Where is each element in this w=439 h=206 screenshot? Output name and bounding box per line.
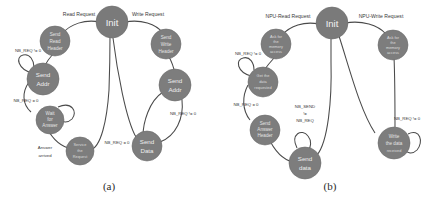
node-ask-memory-left-line-3: access	[270, 49, 282, 54]
node-init-a-label: Init	[106, 17, 119, 28]
edge-init-to-send-read-header	[62, 21, 100, 34]
node-send-data-b-line-0: Send	[298, 155, 313, 162]
edge-label-b-nb-req-ne-zero-right: NB_REQ != 0	[394, 116, 421, 121]
node-send-data-a-line-0: Send	[140, 138, 155, 145]
edge-init-to-send-write-header	[125, 21, 163, 33]
edge-label-nb-send-line-0: NB_SEND	[295, 104, 315, 109]
node-get-data-requested-line-1: data	[259, 79, 267, 84]
node-ask-memory-access-right[interactable]: Ask for the memory access	[378, 30, 408, 60]
node-service-the-request[interactable]: Service the Request	[66, 137, 94, 165]
node-wait-for-answer-line-0: Wait	[45, 111, 55, 116]
node-send-answer-header[interactable]: Send Answer Header	[250, 115, 280, 145]
node-send-addr-right-line-0: Send	[168, 77, 183, 84]
node-send-addr-right-line-1: Addr	[168, 86, 181, 93]
edge-init-to-ask-memory-left	[282, 23, 319, 35]
node-service-the-request-line-1: the	[77, 148, 82, 153]
panel-b-nodes: Init Ask for the memory access Get the d…	[248, 7, 410, 179]
edge-label-nb-req-eq-zero-center: NB_REQ = 0	[105, 140, 131, 145]
panel-a-svg: Init Send Read Header Send Addr Wait for	[0, 0, 219, 206]
node-wait-for-answer-line-1: for	[47, 117, 53, 122]
edge-label-b-nb-req-ne-zero-left: NB_REQ != 0	[235, 51, 262, 56]
edge-label-read-request: Read Request	[63, 11, 96, 17]
node-write-data-received-line-2: received	[387, 148, 402, 153]
node-send-write-header[interactable]: Send Write Header	[151, 29, 181, 59]
node-send-answer-header-line-0: Send	[260, 121, 271, 126]
edge-label-nb-req-ne-zero-right: NB_REQ != 0	[170, 111, 197, 116]
node-send-write-header-line-1: Write	[161, 42, 172, 47]
edge-init-to-write-data-curve	[339, 36, 375, 133]
panel-b-svg: Init Ask for the memory access Get the d…	[220, 0, 439, 206]
node-write-data-received-line-1: the data	[386, 141, 403, 146]
node-init-b[interactable]: Init	[316, 7, 348, 39]
node-write-data-received[interactable]: Write the data received	[378, 127, 410, 159]
edge-label-npu-read-request: NPU-Read Request	[265, 13, 311, 19]
node-send-addr-right[interactable]: Send Addr	[159, 69, 191, 101]
node-get-data-requested-line-2: requested	[254, 85, 271, 90]
edge-init-to-ask-memory-right	[345, 22, 386, 34]
node-send-read-header-line-0: Send	[50, 32, 61, 37]
node-send-addr-left-line-0: Send	[36, 71, 51, 78]
edge-label-nb-send-line-1: !=	[303, 111, 307, 116]
panel-a: Init Send Read Header Send Addr Wait for	[0, 0, 219, 206]
panel-b: Init Ask for the memory access Get the d…	[220, 0, 439, 206]
edge-label-b-nb-req-eq-zero-left: NB_REQ = 0	[234, 102, 260, 107]
node-write-data-received-line-0: Write	[389, 134, 400, 139]
node-wait-for-answer-line-2: Answer	[42, 123, 58, 128]
node-wait-for-answer[interactable]: Wait for Answer	[36, 106, 64, 134]
node-init-a[interactable]: Init	[96, 6, 128, 38]
node-get-data-requested-line-0: Get the	[257, 73, 270, 78]
node-init-b-label: Init	[326, 18, 339, 29]
edge-label-nb-send-line-2: NB_REQ	[296, 118, 314, 123]
node-send-data-b[interactable]: Send data	[289, 147, 321, 179]
node-send-answer-header-line-2: Header	[257, 133, 273, 138]
edge-label-write-request: Write Request	[132, 11, 165, 17]
figure-root: Init Send Read Header Send Addr Wait for	[0, 0, 439, 206]
node-send-read-header-line-1: Read	[50, 39, 61, 44]
node-send-write-header-line-0: Send	[161, 35, 172, 40]
node-ask-memory-right-line-3: access	[387, 50, 399, 55]
edge-send-addr-right-to-send-data	[143, 92, 163, 136]
edge-label-nb-req-eq-zero-left: NB_REQ = 0	[14, 98, 40, 103]
node-send-read-header[interactable]: Send Read Header	[40, 26, 70, 56]
node-send-data-b-line-1: data	[299, 164, 312, 171]
panel-a-caption: (a)	[103, 180, 116, 193]
node-send-read-header-line-2: Header	[47, 46, 63, 51]
node-send-write-header-line-2: Header	[158, 49, 174, 54]
edge-label-answer-arrived-line-0: Answer	[38, 145, 53, 150]
edge-label-nb-req-ne-zero-left: NB_REQ != 0	[15, 48, 42, 53]
node-send-data-a[interactable]: Send Data	[132, 131, 162, 161]
node-get-data-requested[interactable]: Get the data requested	[248, 67, 278, 97]
edge-label-npu-write-request: NPU-Write Request	[359, 13, 404, 19]
edge-send-data-to-init	[317, 39, 331, 155]
node-send-data-a-line-1: Data	[140, 147, 154, 154]
node-service-the-request-line-0: Service	[74, 142, 87, 147]
node-service-the-request-line-2: Request	[73, 154, 88, 159]
edge-send-data-to-init	[113, 38, 136, 137]
node-send-addr-left-line-1: Addr	[36, 80, 49, 87]
edge-label-answer-arrived-line-1: arrived	[38, 153, 52, 158]
node-send-addr-left[interactable]: Send Addr	[27, 63, 59, 95]
node-send-answer-header-line-1: Answer	[257, 127, 273, 132]
panel-b-caption: (b)	[324, 180, 337, 193]
node-ask-memory-access-left[interactable]: Ask for the memory access	[261, 29, 291, 59]
edge-service-request-to-init	[90, 36, 110, 150]
